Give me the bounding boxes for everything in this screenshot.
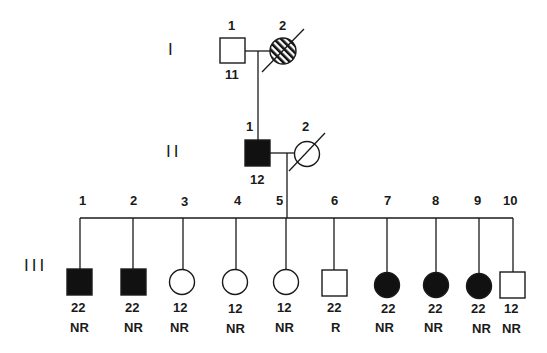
pedigree-diagram: I II III 1 11 2 1 12 2 1 2 3 4 5 6 7 8 9… (0, 0, 547, 353)
individual-iii-1: 22 NR (67, 218, 92, 335)
id-label-iii-5: 5 (276, 193, 283, 208)
female-unaffected-symbol (274, 270, 299, 295)
id-label-iii-2: 2 (130, 193, 137, 208)
genotype-label: 22 (125, 300, 139, 315)
individual-i-2: 2 (262, 18, 304, 72)
id-label: 2 (302, 119, 309, 134)
id-label-iii-4: 4 (234, 193, 242, 208)
individual-i-1: 1 11 (220, 18, 245, 82)
response-label: NR (226, 321, 245, 336)
genotype-label: 22 (327, 300, 341, 315)
generation-label-i: I (168, 40, 176, 59)
id-label-iii-9: 9 (474, 193, 481, 208)
genotype-label: 12 (277, 300, 291, 315)
individual-iii-8: 22 NR (424, 218, 449, 335)
female-affected-symbol (467, 274, 492, 299)
id-label: 2 (279, 18, 286, 33)
response-label: NR (275, 320, 294, 335)
response-label: NR (424, 320, 443, 335)
genotype-label: 22 (381, 301, 395, 316)
female-unaffected-symbol (295, 142, 320, 167)
response-label: NR (70, 320, 89, 335)
male-affected-symbol (245, 140, 270, 166)
individual-ii-2: 2 (289, 119, 325, 171)
individual-iii-5: 12 NR (274, 218, 299, 335)
response-label: NR (170, 320, 189, 335)
id-label-iii-3: 3 (181, 194, 188, 209)
generation-label-iii: III (24, 256, 47, 275)
male-affected-symbol (121, 269, 146, 295)
response-label: R (331, 320, 341, 335)
genotype-label: 12 (504, 301, 518, 316)
genotype-label: 22 (71, 300, 85, 315)
individual-iii-7: 22 NR (375, 218, 400, 335)
id-label-iii-6: 6 (331, 193, 338, 208)
genotype-label: 22 (471, 301, 485, 316)
id-label: 1 (246, 119, 253, 134)
male-affected-symbol (67, 269, 92, 295)
genotype-label: 22 (428, 301, 442, 316)
female-affected-symbol (375, 273, 400, 298)
individual-iii-9: 22 NR (467, 218, 492, 336)
genotype-label: 12 (228, 301, 242, 316)
generation-label-ii: II (166, 142, 181, 161)
male-unaffected-symbol (500, 272, 525, 298)
response-label: NR (375, 320, 394, 335)
id-label: 1 (228, 18, 235, 33)
response-label: NR (472, 321, 491, 336)
female-affected-symbol (424, 273, 449, 298)
male-unaffected-symbol (322, 270, 347, 296)
individual-iii-6: 22 R (322, 218, 347, 335)
individual-iii-10: 12 NR (500, 218, 525, 336)
id-label-iii-8: 8 (432, 193, 439, 208)
genotype-label: 12 (250, 172, 264, 187)
id-label-iii-10: 10 (503, 193, 517, 208)
response-label: NR (502, 321, 521, 336)
id-label-iii-1: 1 (79, 193, 86, 208)
female-unaffected-symbol (170, 270, 195, 295)
female-unaffected-symbol (223, 270, 248, 295)
genotype-label: 11 (225, 67, 239, 82)
id-label-iii-7: 7 (384, 193, 391, 208)
response-label: NR (124, 320, 143, 335)
individual-iii-2: 22 NR (121, 218, 146, 335)
individual-iii-4: 12 NR (223, 218, 248, 336)
individual-iii-3: 12 NR (170, 218, 195, 335)
genotype-label: 12 (173, 300, 187, 315)
male-unaffected-symbol (220, 38, 245, 63)
